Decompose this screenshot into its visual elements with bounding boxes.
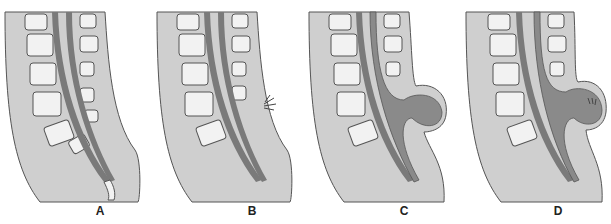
spine-illustration-c: [304, 0, 456, 224]
spine-illustration-b: [152, 0, 304, 224]
panel-label-d: D: [548, 204, 568, 218]
spine-illustration-d: [456, 0, 608, 224]
panel-label-b: B: [242, 204, 262, 218]
panel-c: C: [304, 0, 456, 224]
panel-a: A: [0, 0, 152, 224]
spine-illustration-a: [0, 0, 152, 224]
panel-d: D: [456, 0, 608, 224]
panel-label-c: C: [394, 204, 414, 218]
panel-b: B: [152, 0, 304, 224]
panel-label-a: A: [90, 204, 110, 218]
